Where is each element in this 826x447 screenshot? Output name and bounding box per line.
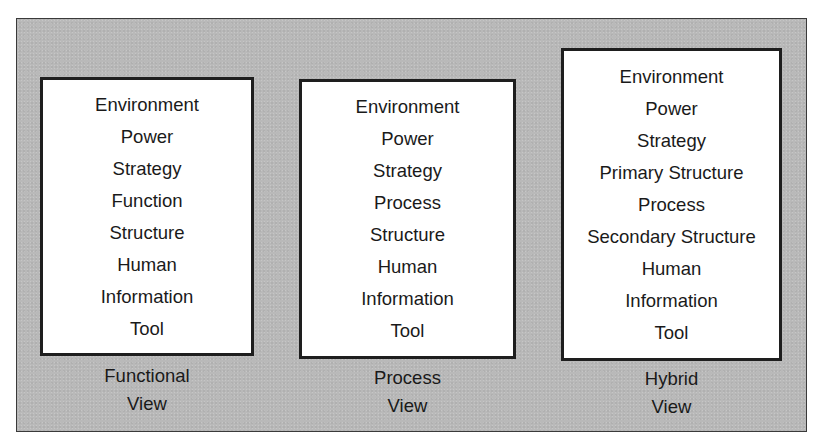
hybrid-item: Information	[625, 285, 718, 317]
hybrid-view-box: Environment Power Strategy Primary Struc…	[561, 48, 782, 361]
functional-view-box: Environment Power Strategy Function Stru…	[40, 77, 254, 356]
caption-line: Hybrid	[561, 365, 782, 393]
caption-line: View	[561, 393, 782, 421]
hybrid-item: Strategy	[637, 125, 706, 157]
process-item: Structure	[370, 219, 445, 251]
caption-line: View	[299, 392, 516, 420]
process-view-box: Environment Power Strategy Process Struc…	[299, 79, 516, 359]
hybrid-item: Secondary Structure	[587, 221, 756, 253]
hybrid-item: Tool	[655, 317, 689, 349]
process-item: Strategy	[373, 155, 442, 187]
functional-item: Environment	[95, 89, 199, 121]
process-item: Process	[374, 187, 441, 219]
functional-item: Structure	[109, 217, 184, 249]
hybrid-item: Primary Structure	[600, 157, 744, 189]
functional-item: Strategy	[113, 153, 182, 185]
functional-item: Human	[117, 249, 177, 281]
hybrid-item: Human	[642, 253, 702, 285]
process-item: Information	[361, 283, 454, 315]
process-view-caption: Process View	[299, 364, 516, 420]
hybrid-item: Environment	[620, 61, 724, 93]
process-item: Human	[378, 251, 438, 283]
process-item: Power	[381, 123, 433, 155]
functional-view-caption: Functional View	[40, 362, 254, 418]
process-item: Tool	[391, 315, 425, 347]
process-item: Environment	[356, 91, 460, 123]
functional-item: Information	[101, 281, 194, 313]
hybrid-item: Power	[645, 93, 697, 125]
caption-line: Process	[299, 364, 516, 392]
hybrid-view-caption: Hybrid View	[561, 365, 782, 421]
functional-item: Function	[112, 185, 183, 217]
functional-item: Tool	[130, 313, 164, 345]
caption-line: Functional	[40, 362, 254, 390]
caption-line: View	[40, 390, 254, 418]
hybrid-item: Process	[638, 189, 705, 221]
functional-item: Power	[121, 121, 173, 153]
